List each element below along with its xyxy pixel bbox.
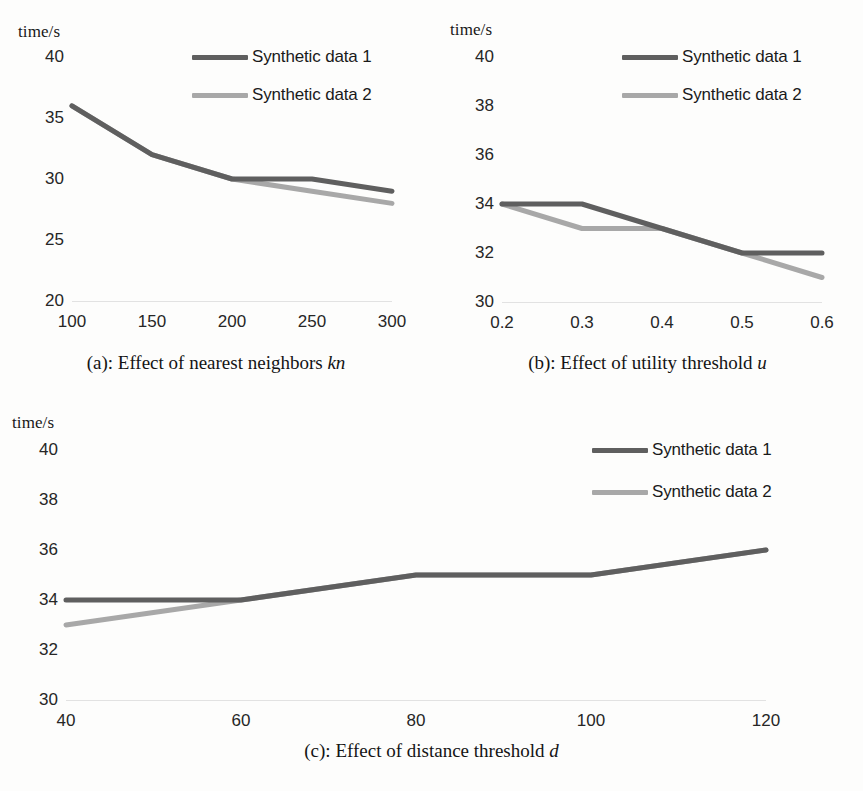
y-axis-title-b: time/s bbox=[450, 20, 492, 40]
legend-label-s2-a: Synthetic data 2 bbox=[252, 85, 372, 105]
legend-swatch-icon-s2-b bbox=[622, 93, 678, 98]
y-tick-b-34: 34 bbox=[450, 194, 494, 214]
legend-b: Synthetic data 1 Synthetic data 2 bbox=[622, 44, 802, 108]
y-tick-b-32: 32 bbox=[450, 243, 494, 263]
x-tick-b-0.2: 0.2 bbox=[490, 313, 514, 333]
legend-item-synthetic-data-1-a: Synthetic data 1 bbox=[192, 44, 372, 70]
y-tick-c-38: 38 bbox=[14, 490, 58, 510]
figure-three-line-charts: time/s 40 35 30 25 20 100 150 200 250 30… bbox=[0, 0, 863, 791]
y-tick-b-40: 40 bbox=[450, 47, 494, 67]
y-tick-a-20: 20 bbox=[20, 291, 64, 311]
legend-item-synthetic-data-1-c: Synthetic data 1 bbox=[592, 437, 772, 463]
chart-panel-c: time/s 40 38 36 34 32 30 40 60 80 100 12… bbox=[0, 395, 863, 791]
x-tick-c-60: 60 bbox=[232, 711, 251, 731]
legend-swatch-icon-s2-c bbox=[592, 490, 648, 495]
line-synthetic-data-1-b bbox=[502, 204, 822, 253]
x-tick-a-100: 100 bbox=[58, 312, 86, 332]
caption-a: (a): Effect of nearest neighbors kn bbox=[0, 352, 432, 374]
y-tick-a-35: 35 bbox=[20, 108, 64, 128]
line-synthetic-data-2-c bbox=[66, 550, 766, 625]
chart-panel-a: time/s 40 35 30 25 20 100 150 200 250 30… bbox=[0, 0, 432, 395]
y-axis-title-c: time/s bbox=[12, 413, 54, 433]
legend-c: Synthetic data 1 Synthetic data 2 bbox=[592, 437, 772, 505]
y-tick-c-32: 32 bbox=[14, 640, 58, 660]
legend-swatch-icon-s1-b bbox=[622, 55, 678, 60]
line-synthetic-data-1-c bbox=[66, 550, 766, 600]
y-tick-a-40: 40 bbox=[20, 47, 64, 67]
legend-swatch-icon-s2-a bbox=[192, 93, 248, 98]
x-tick-a-300: 300 bbox=[378, 312, 406, 332]
x-axis-baseline-a bbox=[72, 301, 392, 302]
caption-a-variable: kn bbox=[327, 352, 345, 373]
caption-a-text: (a): Effect of nearest neighbors bbox=[87, 352, 328, 373]
caption-b-variable: u bbox=[757, 352, 767, 373]
x-tick-c-80: 80 bbox=[407, 711, 426, 731]
y-tick-b-38: 38 bbox=[450, 96, 494, 116]
legend-item-synthetic-data-2-c: Synthetic data 2 bbox=[592, 479, 772, 505]
line-synthetic-data-1-a bbox=[72, 106, 392, 191]
legend-label-s1-a: Synthetic data 1 bbox=[252, 47, 372, 67]
y-tick-a-30: 30 bbox=[20, 169, 64, 189]
legend-item-synthetic-data-1-b: Synthetic data 1 bbox=[622, 44, 802, 70]
line-synthetic-data-2-a bbox=[72, 106, 392, 204]
y-tick-a-25: 25 bbox=[20, 230, 64, 250]
x-tick-b-0.3: 0.3 bbox=[570, 313, 594, 333]
y-tick-c-30: 30 bbox=[14, 690, 58, 710]
caption-b: (b): Effect of utility threshold u bbox=[432, 352, 863, 374]
caption-c: (c): Effect of distance threshold d bbox=[0, 740, 863, 762]
x-tick-c-40: 40 bbox=[57, 711, 76, 731]
x-tick-c-100: 100 bbox=[577, 711, 605, 731]
chart-panel-b: time/s 40 38 36 34 32 30 0.2 0.3 0.4 0.5… bbox=[432, 0, 863, 395]
legend-item-synthetic-data-2-a: Synthetic data 2 bbox=[192, 82, 372, 108]
caption-c-variable: d bbox=[549, 740, 559, 761]
y-tick-c-34: 34 bbox=[14, 590, 58, 610]
x-tick-a-250: 250 bbox=[298, 312, 326, 332]
y-tick-b-36: 36 bbox=[450, 145, 494, 165]
legend-swatch-icon-s1-a bbox=[192, 55, 248, 60]
y-tick-c-36: 36 bbox=[14, 540, 58, 560]
legend-item-synthetic-data-2-b: Synthetic data 2 bbox=[622, 82, 802, 108]
legend-label-s1-c: Synthetic data 1 bbox=[652, 440, 772, 460]
legend-label-s1-b: Synthetic data 1 bbox=[682, 47, 802, 67]
legend-swatch-icon-s1-c bbox=[592, 448, 648, 453]
caption-c-text: (c): Effect of distance threshold bbox=[304, 740, 549, 761]
y-tick-c-40: 40 bbox=[14, 440, 58, 460]
x-tick-b-0.4: 0.4 bbox=[650, 313, 674, 333]
x-tick-b-0.5: 0.5 bbox=[730, 313, 754, 333]
y-axis-title-a: time/s bbox=[18, 22, 60, 42]
x-tick-b-0.6: 0.6 bbox=[810, 313, 834, 333]
legend-label-s2-b: Synthetic data 2 bbox=[682, 85, 802, 105]
x-tick-c-120: 120 bbox=[752, 711, 780, 731]
x-tick-a-150: 150 bbox=[138, 312, 166, 332]
x-axis-baseline-b bbox=[502, 302, 822, 303]
caption-b-text: (b): Effect of utility threshold bbox=[528, 352, 757, 373]
y-tick-b-30: 30 bbox=[450, 292, 494, 312]
x-tick-a-200: 200 bbox=[218, 312, 246, 332]
line-synthetic-data-2-b bbox=[502, 204, 822, 278]
legend-a: Synthetic data 1 Synthetic data 2 bbox=[192, 44, 372, 108]
x-axis-baseline-c bbox=[66, 700, 766, 701]
legend-label-s2-c: Synthetic data 2 bbox=[652, 482, 772, 502]
